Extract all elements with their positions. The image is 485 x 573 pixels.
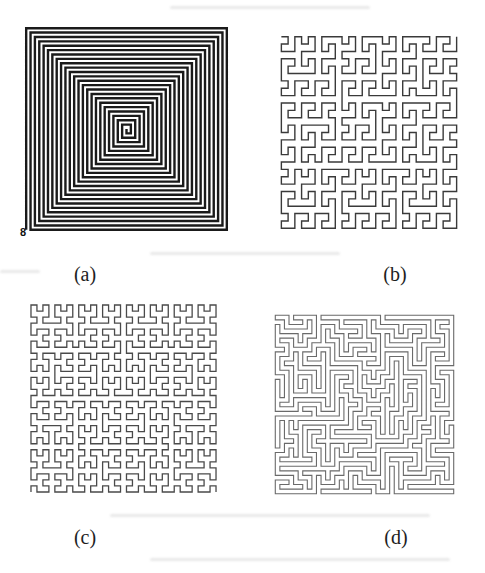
spiral-path-graphic <box>24 26 229 232</box>
peano-path-graphic <box>278 33 460 232</box>
panel-b-peano-scan <box>278 33 460 232</box>
panel-a-spiral-scan <box>24 26 229 232</box>
start-marker-label: 8 <box>20 226 26 238</box>
random-path-graphic <box>273 313 456 496</box>
caption-a: (a) <box>55 263 115 285</box>
caption-d: (d) <box>366 526 426 548</box>
panel-c-hilbert-scan <box>28 302 219 495</box>
caption-b: (b) <box>365 263 425 285</box>
panel-d-random-scan <box>273 313 456 496</box>
caption-c: (c) <box>55 526 115 548</box>
hilbert-path-graphic <box>28 302 219 495</box>
